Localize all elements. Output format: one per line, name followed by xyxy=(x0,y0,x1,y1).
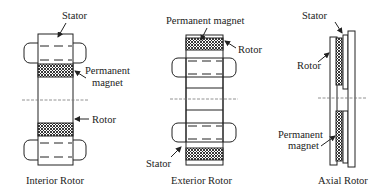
label-rotor: Rotor xyxy=(92,114,116,125)
title-interior-rotor: Interior Rotor xyxy=(26,175,85,186)
permanent-magnet-top xyxy=(186,38,223,50)
exterior-rotor-diagram: Permanent magnet Rotor Stator Exterior R… xyxy=(146,15,262,186)
title-axial-rotor: Axial Rotor xyxy=(318,175,368,186)
permanent-magnet-bottom xyxy=(186,148,223,160)
label-permanent-magnet-l2: magnet xyxy=(92,77,123,88)
stator-segment-top xyxy=(343,35,348,89)
label-rotor: Rotor xyxy=(238,44,262,55)
permanent-magnet-top xyxy=(38,64,73,77)
stator-back-plate xyxy=(348,31,355,167)
stator-segment-bottom xyxy=(343,111,348,163)
motor-topologies-diagram: Stator Permanent magnet Rotor Interior R… xyxy=(0,0,386,190)
label-permanent-magnet-l1: Permanent xyxy=(85,65,130,76)
rotor-body xyxy=(186,35,223,165)
label-stator: Stator xyxy=(146,158,172,169)
label-stator: Stator xyxy=(62,10,88,21)
permanent-magnet-bottom xyxy=(336,111,342,161)
interior-rotor-diagram: Stator Permanent magnet Rotor Interior R… xyxy=(22,10,130,186)
label-permanent-magnet-l2: magnet xyxy=(288,140,319,151)
axial-rotor-diagram: Stator Rotor Permanent magnet Axial Roto… xyxy=(278,10,368,186)
permanent-magnet-bottom xyxy=(38,123,73,136)
rotor-body xyxy=(38,34,73,165)
label-permanent-magnet-l1: Permanent xyxy=(278,129,323,140)
permanent-magnet-top xyxy=(336,38,342,85)
label-stator: Stator xyxy=(302,10,328,21)
label-permanent-magnet: Permanent magnet xyxy=(166,15,245,26)
title-exterior-rotor: Exterior Rotor xyxy=(171,175,232,186)
